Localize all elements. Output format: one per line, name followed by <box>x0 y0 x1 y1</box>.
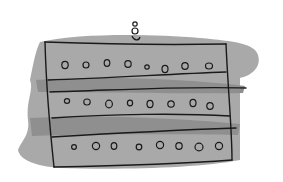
grey-wash <box>18 35 259 169</box>
sketch-canvas <box>0 0 283 182</box>
sketch-drawing <box>0 0 283 182</box>
